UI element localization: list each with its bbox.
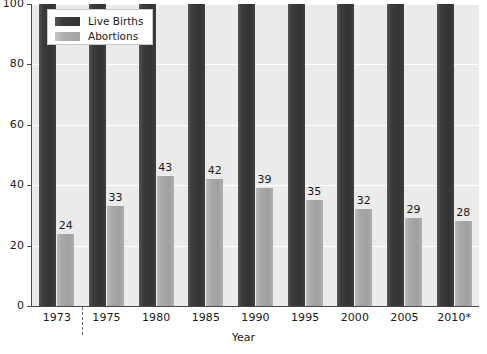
- bar-value-label: 29: [397, 203, 430, 216]
- x-tick-label: 1995: [280, 311, 330, 324]
- bar-abortions-2010: [455, 221, 472, 306]
- x-tick-label: 2010*: [429, 311, 479, 324]
- x-axis-line: [31, 306, 479, 307]
- bar-live-births-1995: [288, 4, 305, 306]
- bar-value-label: 39: [248, 173, 281, 186]
- y-tick-mark: [27, 64, 32, 65]
- legend-label-live-births: Live Births: [88, 15, 143, 27]
- y-tick-label: 0: [17, 299, 24, 312]
- bar-chart-figure: 020406080100 197319751980198519901995200…: [0, 0, 487, 354]
- x-tick-label: 1990: [231, 311, 281, 324]
- legend-swatch-abortions-icon: [55, 32, 80, 41]
- x-tick-label: 2000: [330, 311, 380, 324]
- plot-area: [32, 4, 479, 306]
- bar-live-births-1973: [39, 4, 56, 306]
- chart-legend: Live Births Abortions: [47, 9, 153, 45]
- bar-abortions-1973: [57, 234, 74, 306]
- legend-swatch-live-births-icon: [55, 17, 80, 26]
- bar-live-births-1985: [188, 4, 205, 306]
- bar-value-label: 42: [198, 164, 231, 177]
- bar-abortions-2005: [405, 218, 422, 306]
- x-tick-label: 1985: [181, 311, 231, 324]
- y-tick-label: 80: [10, 57, 24, 70]
- y-tick-label: 20: [10, 239, 24, 252]
- bar-abortions-1995: [306, 200, 323, 306]
- bar-value-label: 43: [149, 161, 182, 174]
- legend-item-abortions[interactable]: Abortions: [55, 29, 152, 43]
- bar-abortions-1980: [157, 176, 174, 306]
- bar-live-births-2010: [437, 4, 454, 306]
- bar-value-label: 24: [49, 219, 82, 232]
- x-tick-label: 2005: [380, 311, 430, 324]
- x-tick-label: 1975: [82, 311, 132, 324]
- x-tick-label: 1973: [32, 311, 82, 324]
- y-tick-mark: [27, 246, 32, 247]
- bar-abortions-1985: [206, 179, 223, 306]
- x-tick-label: 1980: [131, 311, 181, 324]
- bar-live-births-2005: [387, 4, 404, 306]
- y-tick-mark: [27, 185, 32, 186]
- bar-abortions-2000: [355, 209, 372, 306]
- bar-abortions-1990: [256, 188, 273, 306]
- y-tick-mark: [27, 306, 32, 307]
- bar-live-births-1990: [238, 4, 255, 306]
- bar-abortions-1975: [107, 206, 124, 306]
- bar-value-label: 28: [447, 206, 480, 219]
- legend-item-live-births[interactable]: Live Births: [55, 14, 152, 28]
- y-tick-label: 60: [10, 118, 24, 131]
- bar-value-label: 33: [99, 191, 132, 204]
- legend-label-abortions: Abortions: [88, 30, 138, 42]
- bar-value-label: 35: [298, 185, 331, 198]
- y-tick-label: 100: [3, 0, 24, 10]
- y-axis-line: [31, 4, 32, 307]
- bar-live-births-1975: [89, 4, 106, 306]
- y-tick-label: 40: [10, 178, 24, 191]
- bar-live-births-1980: [139, 4, 156, 306]
- y-tick-mark: [27, 4, 32, 5]
- bar-live-births-2000: [337, 4, 354, 306]
- x-axis-title: Year: [0, 331, 487, 344]
- bar-value-label: 32: [347, 194, 380, 207]
- y-tick-mark: [27, 125, 32, 126]
